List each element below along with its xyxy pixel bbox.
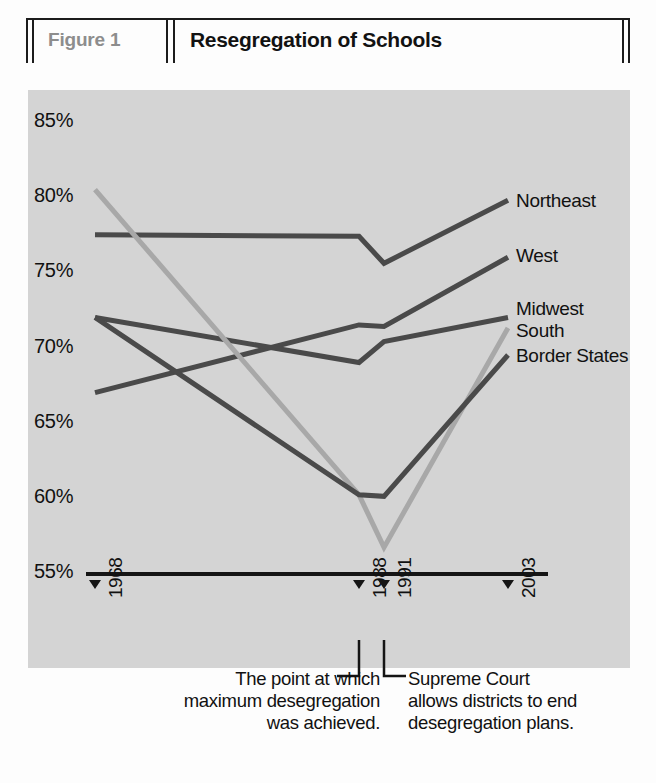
y-tick-label: 75% [34, 259, 73, 282]
header-divider-outer [166, 20, 168, 63]
annotation-right-text: Supreme Court allows districts to end de… [408, 668, 648, 733]
x-axis-marker-arrow [353, 580, 365, 589]
series-label-south: South [516, 320, 564, 342]
figure-container: Figure 1 Resegregation of Schools 85%80%… [0, 0, 656, 783]
figure-title: Resegregation of Schools [190, 28, 442, 52]
y-tick-label: 60% [34, 485, 73, 508]
x-tick-label: 1968 [105, 558, 127, 598]
series-line-border-states [95, 317, 508, 496]
series-label-northeast: Northeast [516, 190, 596, 212]
x-tick-label: 1991 [394, 558, 416, 598]
x-axis-marker-arrow [89, 580, 101, 589]
header-rule-right [628, 20, 630, 63]
figure-header: Figure 1 Resegregation of Schools [26, 18, 630, 61]
annotation-left-text: The point at which maximum desegregation… [110, 668, 380, 733]
series-label-border-states: Border States [516, 345, 628, 367]
y-tick-label: 70% [34, 335, 73, 358]
series-line-west [95, 257, 508, 392]
x-axis-marker-arrow [502, 580, 514, 589]
x-axis-marker-arrow [378, 580, 390, 589]
x-tick-label: 2003 [518, 558, 540, 598]
y-tick-label: 85% [34, 109, 73, 132]
series-line-south [95, 190, 508, 548]
chart-plot-area: 85%80%75%70%65%60%55% 1968198819912003 N… [28, 90, 630, 668]
header-rule-left-inner [32, 20, 34, 63]
series-line-northeast [95, 200, 508, 263]
header-divider-inner [173, 20, 175, 63]
figure-number-label: Figure 1 [48, 29, 120, 51]
series-label-midwest: Midwest [516, 298, 584, 320]
series-label-west: West [516, 245, 558, 267]
header-rule-right-inner [622, 20, 624, 63]
y-tick-label: 55% [34, 560, 73, 583]
header-rule-left [26, 20, 28, 63]
y-tick-label: 65% [34, 410, 73, 433]
x-tick-label: 1988 [369, 558, 391, 598]
y-tick-label: 80% [34, 184, 73, 207]
